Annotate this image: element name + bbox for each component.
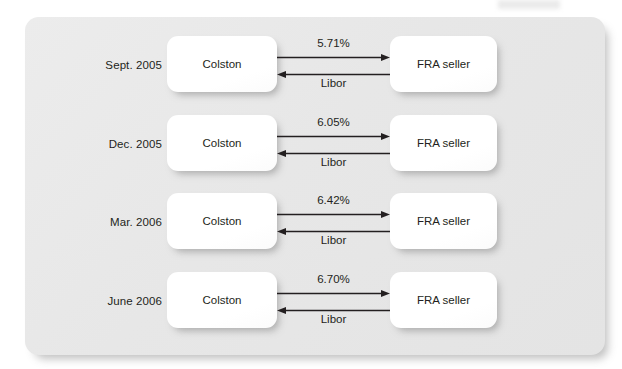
node-colston: Colston xyxy=(167,36,277,92)
node-fra-seller: FRA seller xyxy=(390,272,497,328)
node-fra-seller: FRA seller xyxy=(390,193,497,249)
node-colston: Colston xyxy=(167,272,277,328)
row-flows: 5.71% Libor xyxy=(277,36,390,94)
libor-label: Libor xyxy=(277,156,390,168)
node-colston: Colston xyxy=(167,115,277,171)
libor-label: Libor xyxy=(277,77,390,89)
node-fra-seller: FRA seller xyxy=(390,36,497,92)
node-colston: Colston xyxy=(167,193,277,249)
row-date-label: June 2006 xyxy=(40,272,162,330)
row-flows: 6.70% Libor xyxy=(277,272,390,330)
row-date-label: Dec. 2005 xyxy=(40,115,162,173)
settlement-row: Mar. 2006 Colston 6.42% Libor xyxy=(0,193,622,251)
rate-label: 6.70% xyxy=(277,273,390,285)
rate-label: 5.71% xyxy=(277,37,390,49)
row-date-label: Sept. 2005 xyxy=(40,36,162,94)
settlement-row: June 2006 Colston 6.70% Libor xyxy=(0,272,622,330)
diagram-rows: Sept. 2005 Colston 5.71% Libor xyxy=(0,0,622,369)
rate-label: 6.42% xyxy=(277,194,390,206)
settlement-row: Sept. 2005 Colston 5.71% Libor xyxy=(0,36,622,94)
fra-settlement-diagram: Sept. 2005 Colston 5.71% Libor xyxy=(0,0,622,369)
row-flows: 6.42% Libor xyxy=(277,193,390,251)
arrow-colston-to-seller xyxy=(277,131,390,142)
arrow-colston-to-seller xyxy=(277,288,390,299)
row-date-label: Mar. 2006 xyxy=(40,193,162,251)
rate-label: 6.05% xyxy=(277,116,390,128)
row-flows: 6.05% Libor xyxy=(277,115,390,173)
arrow-colston-to-seller xyxy=(277,209,390,220)
settlement-row: Dec. 2005 Colston 6.05% Libor xyxy=(0,115,622,173)
node-fra-seller: FRA seller xyxy=(390,115,497,171)
libor-label: Libor xyxy=(277,234,390,246)
arrow-colston-to-seller xyxy=(277,52,390,63)
libor-label: Libor xyxy=(277,313,390,325)
